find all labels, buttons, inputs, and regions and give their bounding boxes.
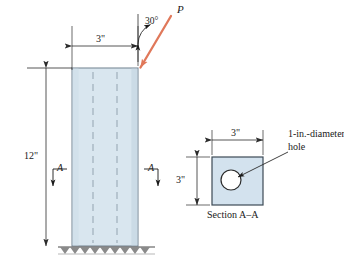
ground-hatch xyxy=(60,247,150,254)
label-section-depth: 3" xyxy=(176,174,185,186)
column-shade-left xyxy=(73,69,79,246)
label-section-width: 3" xyxy=(231,127,240,139)
label-column-width: 3" xyxy=(96,33,105,45)
label-hole-annotation-line2: hole xyxy=(288,141,305,153)
column-outline xyxy=(72,68,138,246)
label-force-P: P xyxy=(177,3,184,16)
label-section-caption: Section A–A xyxy=(207,209,258,221)
hole-circle xyxy=(221,170,241,190)
angle-arc xyxy=(138,25,151,45)
figure-canvas: 3" 12" 30° P A A 3" 3" 1-in.-diameter ho… xyxy=(0,0,344,272)
section-square xyxy=(212,157,263,205)
fixed-support-base xyxy=(58,247,155,254)
dimension-section-depth-3in xyxy=(186,157,210,205)
label-section-marker-left: A xyxy=(57,162,63,174)
label-hole-annotation-line1: 1-in.-diameter xyxy=(288,128,344,140)
label-load-angle: 30° xyxy=(145,16,158,27)
label-column-height: 12" xyxy=(24,150,38,162)
column-member xyxy=(72,68,138,246)
label-section-marker-right: A xyxy=(148,162,154,174)
column-shade-right xyxy=(131,69,137,246)
